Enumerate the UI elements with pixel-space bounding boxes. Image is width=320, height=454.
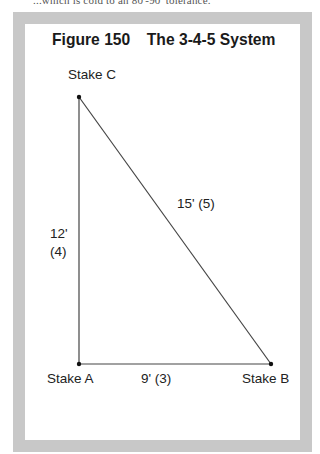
stake-c-point xyxy=(77,95,81,99)
stake-a-label: Stake A xyxy=(47,371,94,386)
side-bc xyxy=(79,97,271,364)
stake-a-point xyxy=(77,362,81,366)
side-ac-length: 12' xyxy=(50,226,68,241)
side-ac-ratio: (4) xyxy=(50,244,67,259)
stake-b-label: Stake B xyxy=(242,371,289,386)
stake-b-point xyxy=(269,362,273,366)
stake-c-label: Stake C xyxy=(68,67,116,82)
side-bc-label: 15' (5) xyxy=(177,196,215,211)
side-ab-label: 9' (3) xyxy=(141,371,171,386)
